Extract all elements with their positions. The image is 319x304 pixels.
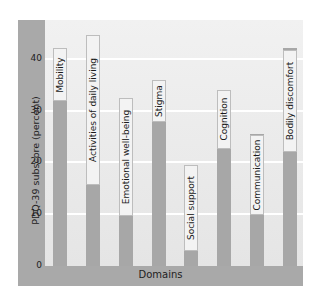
gridline: [45, 58, 303, 60]
y-axis-label: PDQ-39 subscore (percent): [30, 96, 41, 226]
bar-label: Emotional well-being: [119, 98, 133, 216]
x-axis-label: Domains: [18, 269, 303, 280]
bar-label: Activities of daily living: [86, 35, 100, 185]
gridline: [45, 161, 303, 163]
bar-label: Communication: [250, 135, 264, 215]
bar-label: Stigma: [152, 80, 166, 122]
bar-label: Cognition: [217, 90, 231, 149]
bar-label: Mobility: [53, 48, 67, 101]
bar-label: Bodily discomfort: [283, 50, 297, 152]
y-tick-label: 40: [22, 53, 42, 63]
gridline: [45, 110, 303, 112]
bar-label: Social support: [184, 165, 198, 251]
gridline: [45, 213, 303, 215]
